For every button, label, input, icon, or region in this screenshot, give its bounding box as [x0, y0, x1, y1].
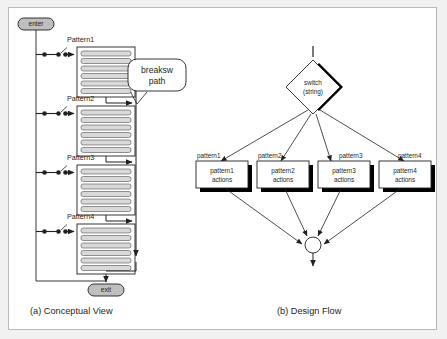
branch-dot: [42, 229, 47, 234]
enter-node: enter: [18, 18, 54, 30]
design-flow-panel: switch (string) pattern1 pattern2 patter…: [196, 46, 435, 316]
branch-dot: [56, 229, 61, 234]
action-box-2: pattern2 actions: [257, 161, 313, 192]
merge-arrow-1: [226, 189, 302, 244]
action-box-1: pattern1 actions: [196, 161, 252, 192]
case-label-3: pattern3: [339, 152, 363, 160]
breaksw-arrow-3: [106, 215, 132, 221]
switch-label-line2: (string): [303, 88, 323, 96]
branch-dot: [56, 52, 61, 57]
merge-arrow-3: [318, 189, 341, 236]
pattern-block-label-3: Pattern3: [67, 153, 94, 162]
switch-decision-node: switch (string): [286, 60, 343, 114]
pattern-block-4: [77, 224, 135, 274]
action-box-1-line2: actions: [212, 176, 232, 183]
action-box-4-line2: actions: [395, 176, 415, 183]
pattern-block-2: [77, 106, 135, 156]
breaksw-arrow-2: [106, 156, 132, 162]
pattern-block-1: [77, 47, 135, 97]
join-circle-node: [305, 237, 321, 253]
action-box-2-line1: pattern2: [271, 167, 295, 175]
switch-label-line1: switch: [304, 79, 322, 86]
pattern-block-3: [77, 165, 135, 215]
branch-dot: [56, 111, 61, 116]
merge-arrow-2: [285, 189, 307, 236]
case-label-2: pattern2: [258, 152, 282, 160]
pattern-block-label-4: Pattern4: [67, 212, 94, 221]
switch-branch-arrow-3: [316, 114, 331, 161]
action-box-3-line1: pattern3: [332, 167, 356, 175]
merge-arrow-4: [324, 189, 400, 244]
exit-node-label: exit: [101, 286, 111, 293]
action-box-3: pattern3 actions: [318, 161, 374, 192]
figure-root: enter Pattern1: [0, 0, 447, 339]
branch-dot: [42, 52, 47, 57]
branch-dot: [42, 170, 47, 175]
enter-node-label: enter: [28, 20, 44, 27]
action-box-4: pattern4 actions: [379, 161, 435, 192]
diagram-canvas: enter Pattern1: [0, 0, 447, 339]
caption-right: (b) Design Flow: [277, 306, 342, 316]
action-box-4-line1: pattern4: [393, 167, 417, 175]
exit-node: exit: [88, 284, 124, 296]
breaksw-path-callout: breaksw path: [128, 59, 186, 104]
breaksw-callout-line1: breaksw: [141, 65, 174, 75]
switch-branch-arrow-2: [281, 114, 311, 161]
breaksw-arrow-1: [106, 97, 132, 103]
case-label-1: pattern1: [197, 152, 221, 160]
conceptual-view-panel: enter Pattern1: [18, 18, 186, 316]
branch-dot: [56, 170, 61, 175]
action-box-1-line1: pattern1: [210, 167, 234, 175]
branch-dot: [42, 111, 47, 116]
pattern-block-label-1: Pattern1: [67, 35, 94, 44]
case-label-4: pattern4: [398, 152, 422, 160]
breaksw-callout-line2: path: [149, 76, 166, 86]
pattern-block-label-2: Pattern2: [67, 94, 94, 103]
action-box-3-line2: actions: [334, 176, 354, 183]
action-box-2-line2: actions: [273, 176, 293, 183]
caption-left: (a) Conceptual View: [30, 306, 113, 316]
